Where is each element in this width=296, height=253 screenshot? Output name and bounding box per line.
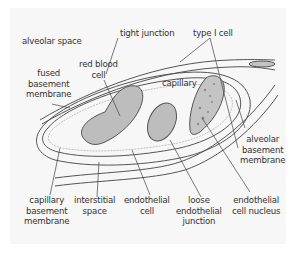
red-blood-cell-2 xyxy=(142,98,182,145)
label-alveolar-space: alveolar space xyxy=(22,36,82,47)
label-loose-endothelial-junction: loose endothelial junction xyxy=(176,195,222,227)
label-capillary: capillary xyxy=(162,78,197,89)
label-endothelial-cell: endothelial cell xyxy=(124,195,170,216)
label-endothelial-cell-nucleus: endothelial cell nucleus xyxy=(232,195,280,216)
label-alveolar-basement-membrane: alveolar basement membrane xyxy=(240,134,285,166)
leader-loose-junction xyxy=(170,140,201,197)
diagram-canvas: alveolar space tight junction type I cel… xyxy=(0,0,296,253)
label-capillary-basement-membrane: capillary basement membrane xyxy=(24,195,69,227)
red-blood-cell-1 xyxy=(82,86,143,145)
label-interstitial-space: interstitial space xyxy=(74,195,115,216)
leader-endothelial-cell xyxy=(132,150,150,195)
leader-type-i-cell-a xyxy=(180,38,210,62)
label-tight-junction: tight junction xyxy=(120,28,174,39)
leader-capillary-basement xyxy=(50,148,60,195)
label-fused-basement-membrane: fused basement membrane xyxy=(26,68,71,100)
leader-interstitial xyxy=(97,162,99,197)
label-red-blood-cell: red blood cell xyxy=(79,59,118,80)
type-i-cell-nucleus xyxy=(249,61,275,67)
label-type-i-cell: type I cell xyxy=(193,28,233,39)
